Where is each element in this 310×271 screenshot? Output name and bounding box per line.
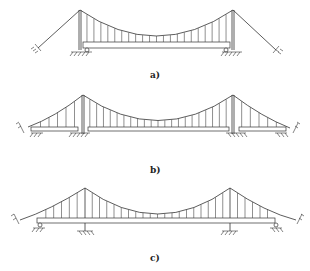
right-side-cable	[230, 188, 296, 220]
ground-support	[30, 133, 43, 137]
continuous-deck	[37, 218, 275, 223]
left-backstay	[38, 10, 80, 48]
main-cable	[80, 10, 233, 36]
ground-support	[221, 231, 238, 235]
left-side-deck	[31, 127, 78, 131]
ground-support	[270, 228, 283, 232]
left-side-cable	[20, 188, 85, 220]
ground-support	[69, 133, 90, 137]
deck	[83, 42, 230, 48]
left-anchor	[11, 214, 19, 224]
panel-a-bridge	[31, 10, 283, 56]
ground-support	[226, 133, 247, 137]
panel-a-label: a)	[150, 70, 160, 80]
ground-support	[32, 228, 45, 232]
panel-b-bridge	[16, 95, 300, 137]
panel-b-label: b)	[150, 165, 161, 175]
right-backstay	[233, 10, 276, 50]
right-anchor	[273, 46, 283, 54]
right-anchor	[297, 214, 304, 224]
panel-c-label: c)	[150, 253, 160, 263]
main-cable	[83, 95, 233, 121]
main-deck	[88, 127, 229, 131]
panel-c-bridge	[11, 188, 304, 235]
left-anchor	[31, 44, 41, 53]
left-anchor	[16, 122, 24, 133]
bearing	[224, 48, 228, 52]
bearing	[85, 48, 89, 52]
ground-support	[77, 231, 94, 235]
bearing	[274, 223, 278, 227]
right-anchor	[293, 122, 300, 133]
bridge-schemes-diagram: a) b) c)	[0, 0, 310, 271]
bearing	[38, 223, 42, 227]
ground-support	[275, 133, 288, 137]
right-side-deck	[239, 127, 286, 131]
